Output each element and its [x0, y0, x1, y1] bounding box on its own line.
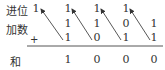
carry-arrows	[0, 0, 165, 70]
